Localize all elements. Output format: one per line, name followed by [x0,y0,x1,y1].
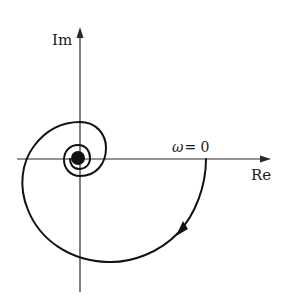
imag-axis-arrowhead-icon [77,27,84,38]
omega-symbol: ω [172,139,184,155]
omega-zero-label: ω= 0 [172,139,210,155]
real-axis-label: Re [251,166,271,184]
real-axis-arrowhead-icon [260,156,271,163]
real-axis [17,156,271,163]
omega-value: = 0 [184,139,209,155]
imag-axis-label: Im [52,31,72,49]
spiral-core-dot [71,151,85,165]
nyquist-diagram: Im Re ω= 0 [0,0,284,301]
